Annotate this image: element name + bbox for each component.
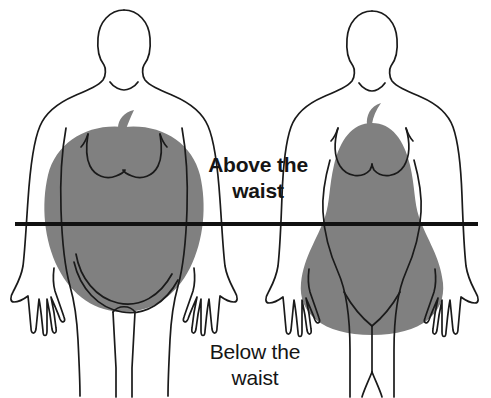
diagram-canvas: Above the waist Below the waist [0,0,491,398]
label-above-the-waist: Above the waist [196,152,320,204]
apple-stem-icon [118,110,134,129]
label-below-the-waist: Below the waist [188,339,322,391]
pear-stem-icon [367,103,381,125]
pear-fat-region [301,103,444,335]
